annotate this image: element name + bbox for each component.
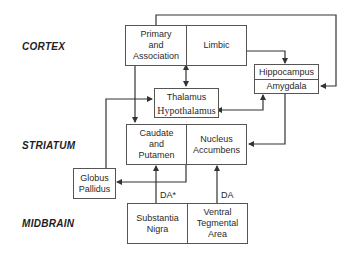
- ventral-tegmental-area-cell: Ventral Tegmental Area: [188, 204, 247, 243]
- limbic-cell: Limbic: [187, 26, 246, 65]
- globus-pallidus-label: Globus Pallidus: [74, 169, 115, 198]
- label-da-star: DA*: [160, 190, 176, 200]
- primary-association-cell: Primary and Association: [126, 26, 187, 65]
- arrow-limbic-to-hippocampus: [246, 51, 285, 63]
- striatum-box: Caudate and Putamen Nucleus Accumbens: [126, 124, 247, 165]
- globus-pallidus-box: Globus Pallidus: [73, 168, 116, 199]
- label-da: DA: [221, 190, 234, 200]
- hippocampus-cell: Hippocampus: [255, 65, 318, 80]
- arrow-striatum-to-pallidus: [117, 164, 186, 182]
- thalamus-hypothalamus-box: Thalamus Hypothalamus: [154, 88, 219, 118]
- thalamus-label: Thalamus: [155, 91, 218, 103]
- amygdala-cell: Amygdala: [255, 80, 318, 93]
- midbrain-box: Substantia Nigra Ventral Tegmental Area: [127, 203, 248, 244]
- nucleus-accumbens-cell: Nucleus Accumbens: [187, 125, 246, 164]
- cortex-box: Primary and Association Limbic: [125, 25, 247, 66]
- hippocampus-amygdala-box: Hippocampus Amygdala: [254, 64, 319, 94]
- substantia-nigra-cell: Substantia Nigra: [128, 204, 188, 243]
- arrow-thalamus-amygdala: [221, 95, 263, 110]
- caudate-putamen-cell: Caudate and Putamen: [127, 125, 187, 164]
- arrow-amygdala-to-accumbens: [249, 93, 285, 144]
- hypothalamus-label: Hypothalamus: [155, 104, 218, 116]
